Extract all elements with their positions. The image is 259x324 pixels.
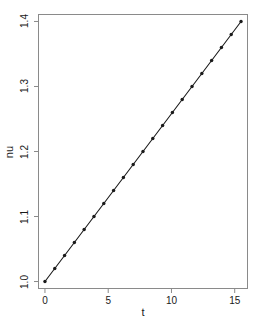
plot-area — [38, 14, 248, 289]
x-axis-title: t — [141, 306, 144, 318]
y-axis-title: nu — [3, 146, 15, 158]
x-tick-label: 15 — [229, 295, 240, 306]
x-axis-tick-marks — [45, 289, 235, 293]
y-tick-label: 1.3 — [19, 80, 30, 94]
x-tick-label: 5 — [105, 295, 111, 306]
y-tick-label: 1.1 — [19, 210, 30, 224]
y-tick-label: 1.2 — [19, 145, 30, 159]
x-tick-label: 10 — [166, 295, 177, 306]
x-tick-label: 0 — [42, 295, 48, 306]
y-tick-label: 1.4 — [19, 15, 30, 29]
chart-figure: 051015 1.01.11.21.31.4 t nu — [0, 0, 259, 324]
y-tick-label: 1.0 — [19, 275, 30, 289]
